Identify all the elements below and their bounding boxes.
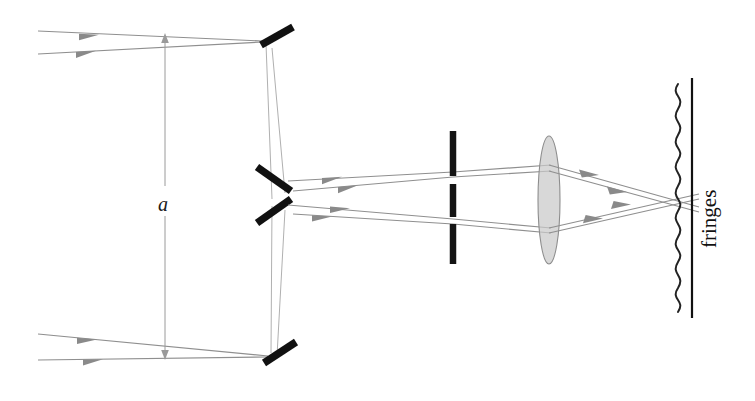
optics-diagram-figure: a — [0, 0, 755, 401]
separation-label: a — [158, 193, 168, 215]
optics-diagram-canvas: a — [0, 0, 755, 401]
fringes-label-group: fringes — [697, 190, 721, 248]
converging-lens — [538, 136, 560, 264]
converging-lens-group — [538, 136, 560, 264]
fringes-label: fringes — [697, 190, 721, 248]
